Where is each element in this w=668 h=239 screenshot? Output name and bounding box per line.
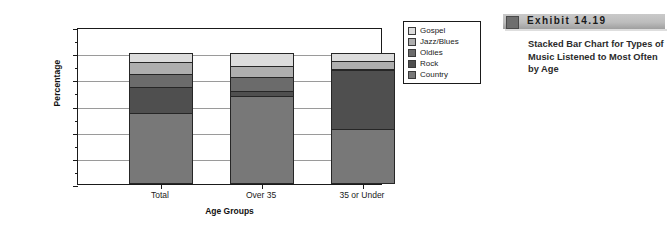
x-axis-title: Age Groups bbox=[77, 206, 382, 216]
bar-segment-gospel bbox=[230, 53, 294, 66]
x-tick bbox=[363, 184, 364, 189]
chart-panel: Percentage 0%20%40%60%80%100%120% TotalO… bbox=[0, 0, 400, 239]
y-axis-title: Percentage bbox=[52, 38, 62, 128]
legend-label: Rock bbox=[420, 59, 438, 68]
legend-swatch-icon bbox=[408, 38, 416, 46]
exhibit-panel: Exhibit 14.19 Stacked Bar Chart for Type… bbox=[498, 0, 668, 239]
bar-segment-oldies bbox=[331, 69, 395, 70]
legend-item-gospel: Gospel bbox=[408, 25, 477, 36]
bar-segment-country bbox=[230, 96, 294, 184]
y-tick-minor bbox=[75, 173, 78, 174]
exhibit-header: Exhibit 14.19 bbox=[503, 14, 665, 31]
bar-segment-rock bbox=[331, 70, 395, 129]
chart-legend: GospelJazz/BluesOldiesRockCountry bbox=[403, 21, 481, 84]
y-tick-major bbox=[73, 55, 78, 56]
legend-label: Oldies bbox=[420, 48, 443, 57]
y-tick-minor bbox=[75, 68, 78, 69]
y-tick-minor bbox=[75, 94, 78, 95]
bar-segment-jazz-blues bbox=[230, 66, 294, 76]
y-tick-major bbox=[73, 108, 78, 109]
y-tick-minor bbox=[75, 147, 78, 148]
bar-segment-oldies bbox=[129, 74, 193, 87]
bar-segment-gospel bbox=[331, 53, 395, 61]
exhibit-caption: Stacked Bar Chart for Types of Music Lis… bbox=[528, 38, 668, 76]
y-tick-major bbox=[73, 134, 78, 135]
legend-swatch-icon bbox=[408, 60, 416, 68]
legend-swatch-icon bbox=[408, 71, 416, 79]
y-tick-minor bbox=[75, 121, 78, 122]
bar-segment-gospel bbox=[129, 53, 193, 62]
exhibit-number: Exhibit 14.19 bbox=[527, 15, 606, 26]
y-tick-major bbox=[73, 81, 78, 82]
plot-area bbox=[77, 28, 382, 185]
legend-swatch-icon bbox=[408, 27, 416, 35]
y-tick-major bbox=[73, 29, 78, 30]
bar-segment-rock bbox=[129, 87, 193, 113]
legend-item-oldies: Oldies bbox=[408, 47, 477, 58]
exhibit-header-shadow bbox=[505, 29, 667, 31]
bar-segment-oldies bbox=[230, 77, 294, 91]
legend-item-jazz-blues: Jazz/Blues bbox=[408, 36, 477, 47]
x-category-label: 35 or Under bbox=[302, 190, 422, 200]
legend-label: Country bbox=[420, 70, 448, 79]
bar-35-or-under bbox=[331, 53, 395, 184]
bar-segment-country bbox=[331, 129, 395, 184]
bar-segment-rock bbox=[230, 91, 294, 96]
x-tick bbox=[262, 184, 263, 189]
y-tick-major bbox=[73, 186, 78, 187]
exhibit-marker-icon bbox=[506, 16, 519, 29]
legend-label: Gospel bbox=[420, 26, 445, 35]
x-tick bbox=[161, 184, 162, 189]
y-tick-major bbox=[73, 160, 78, 161]
exhibit-figure: Percentage 0%20%40%60%80%100%120% TotalO… bbox=[0, 0, 668, 239]
bar-segment-jazz-blues bbox=[331, 61, 395, 69]
bar-over-35 bbox=[230, 53, 294, 184]
legend-swatch-icon bbox=[408, 49, 416, 57]
legend-item-rock: Rock bbox=[408, 58, 477, 69]
legend-label: Jazz/Blues bbox=[420, 37, 459, 46]
bar-total bbox=[129, 53, 193, 184]
bar-segment-jazz-blues bbox=[129, 62, 193, 74]
bar-segment-country bbox=[129, 113, 193, 184]
y-tick-minor bbox=[75, 42, 78, 43]
legend-item-country: Country bbox=[408, 69, 477, 80]
